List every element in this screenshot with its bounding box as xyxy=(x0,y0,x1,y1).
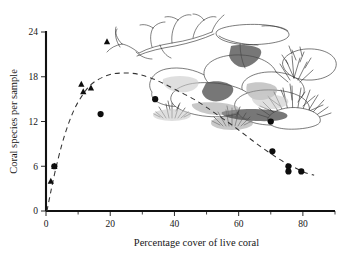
y-axis-tick-label: 0 xyxy=(33,206,38,216)
data-point-circle xyxy=(97,111,103,117)
x-axis-title: Percentage cover of live coral xyxy=(134,237,259,248)
data-point-circle xyxy=(51,163,57,169)
data-point-circle xyxy=(298,168,304,174)
y-axis-tick-label: 12 xyxy=(29,117,39,127)
x-axis-tick-label: 40 xyxy=(170,219,180,229)
data-point-circle xyxy=(269,148,275,154)
data-point-circle xyxy=(285,168,291,174)
data-point-triangle xyxy=(78,81,84,87)
y-axis-tick-label: 6 xyxy=(33,162,38,172)
data-point-triangle xyxy=(88,85,94,91)
coral-reef-illustration xyxy=(107,14,336,130)
y-axis-tick-label: 24 xyxy=(29,27,39,37)
coral-species-figure: 06121824020406080Percentage cover of liv… xyxy=(0,0,350,269)
x-axis-tick-label: 60 xyxy=(234,219,244,229)
y-axis-title: Coral species per sample xyxy=(8,69,19,174)
y-axis-tick-label: 18 xyxy=(29,72,39,82)
x-axis-tick-label: 80 xyxy=(298,219,308,229)
data-point-triangle xyxy=(104,38,110,44)
data-point-circle xyxy=(152,96,158,102)
scatter-plot: 06121824020406080Percentage cover of liv… xyxy=(0,0,350,269)
x-axis-tick-label: 20 xyxy=(105,219,115,229)
data-point-circle xyxy=(268,118,274,124)
x-axis-tick-label: 0 xyxy=(44,219,49,229)
